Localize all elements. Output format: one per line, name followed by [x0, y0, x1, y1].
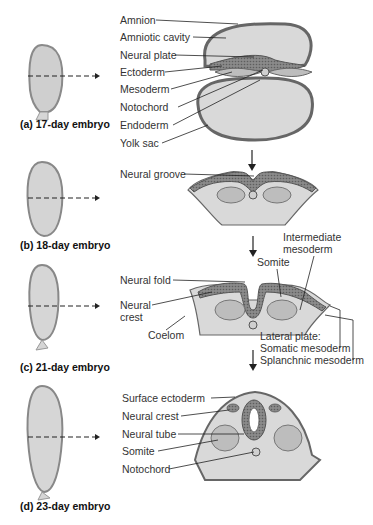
caption-23-day: (d) 23-day embryo — [20, 500, 110, 512]
svg-text:Lateral plate:: Lateral plate: — [260, 330, 321, 342]
svg-text:Endoderm: Endoderm — [120, 119, 169, 131]
svg-text:mesoderm: mesoderm — [283, 243, 333, 255]
svg-text:Splanchnic mesoderm: Splanchnic mesoderm — [260, 354, 364, 366]
svg-text:Intermediate: Intermediate — [283, 231, 342, 243]
svg-text:Neural: Neural — [120, 299, 151, 311]
svg-text:Notochord: Notochord — [120, 101, 169, 113]
cross-section-23-day — [195, 392, 320, 480]
caption-21-day: (c) 21-day embryo — [20, 361, 110, 373]
arrow-down-icon — [249, 250, 257, 257]
embryo-18-day-surface-view — [28, 162, 100, 236]
svg-text:Yolk sac: Yolk sac — [120, 137, 159, 149]
svg-text:Surface ectoderm: Surface ectoderm — [122, 392, 205, 404]
embryo-diagram: (a) 17-day embryo Amnion Amniotic cavity… — [0, 0, 373, 525]
svg-text:Notochord: Notochord — [122, 463, 171, 475]
svg-text:Amnion: Amnion — [120, 14, 156, 26]
svg-text:Neural plate: Neural plate — [120, 49, 177, 61]
cross-section-17-day — [198, 24, 313, 140]
caption-17-day: (a) 17-day embryo — [20, 118, 110, 130]
svg-text:Neural fold: Neural fold — [120, 274, 171, 286]
arrow-down-icon — [248, 164, 256, 171]
svg-text:crest: crest — [120, 311, 143, 323]
svg-text:Somatic mesoderm: Somatic mesoderm — [260, 342, 351, 354]
svg-text:Coelom: Coelom — [148, 329, 184, 341]
arrow-down-icon — [249, 364, 257, 371]
embryo-17-day-surface-view — [28, 45, 100, 120]
svg-text:Neural groove: Neural groove — [120, 168, 186, 180]
cross-section-21-day — [190, 283, 330, 335]
embryo-23-day-surface-view — [28, 386, 100, 500]
caption-18-day: (b) 18-day embryo — [20, 239, 110, 251]
svg-text:Somite: Somite — [122, 445, 155, 457]
embryo-21-day-surface-view — [28, 265, 100, 350]
cross-section-18-day — [188, 172, 318, 225]
svg-text:Neural crest: Neural crest — [122, 410, 179, 422]
svg-text:Amniotic cavity: Amniotic cavity — [120, 31, 191, 43]
svg-text:Neural tube: Neural tube — [122, 428, 176, 440]
svg-text:Mesoderm: Mesoderm — [120, 83, 170, 95]
svg-text:Somite: Somite — [257, 256, 290, 268]
svg-text:Ectoderm: Ectoderm — [120, 66, 165, 78]
